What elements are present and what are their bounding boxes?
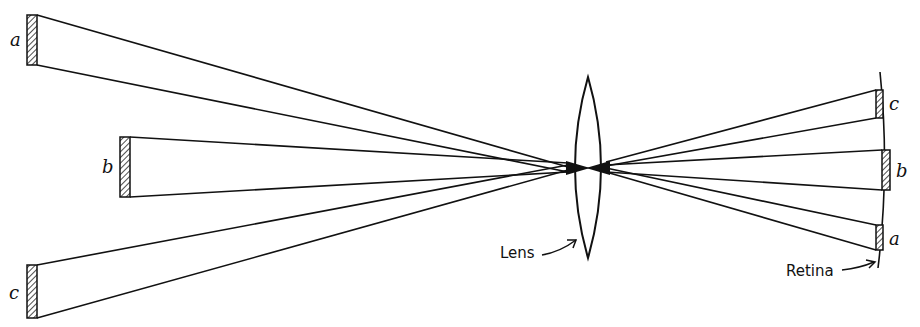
image-c [876, 90, 883, 118]
object-c-label: c [9, 282, 19, 303]
image-b-label: b [896, 160, 908, 181]
object-b-label: b [102, 156, 114, 177]
lens-retina-diagram: a b c c b a Lens Retina [0, 0, 920, 327]
object-b [120, 137, 130, 197]
image-c-label: c [889, 93, 899, 114]
image-a [876, 225, 883, 250]
retina-pointer-arrow [842, 262, 874, 270]
lens-label: Lens [500, 244, 535, 262]
lens-pointer-arrow [542, 240, 576, 255]
image-b [882, 150, 890, 190]
object-a [27, 15, 37, 65]
image-a-label: a [889, 228, 900, 249]
ray-bundle-a [37, 15, 876, 250]
object-c [27, 265, 37, 318]
object-a-label: a [10, 29, 21, 50]
focal-crossing [566, 161, 610, 175]
retina-label: Retina [786, 262, 834, 280]
ray-bundle-c [37, 90, 876, 318]
